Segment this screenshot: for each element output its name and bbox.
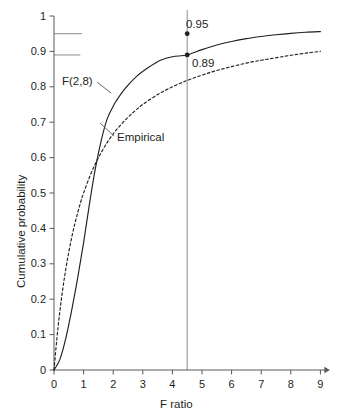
x-tick-label: 2 bbox=[99, 379, 127, 390]
leader-line-f28 bbox=[97, 82, 111, 93]
reference-lines bbox=[54, 10, 187, 370]
chart-canvas bbox=[0, 0, 350, 418]
annotation-value-089: 0.89 bbox=[192, 58, 214, 70]
annotation-marker bbox=[185, 31, 190, 36]
y-tick-label: 0.6 bbox=[6, 152, 46, 163]
x-tick-label: 9 bbox=[306, 379, 334, 390]
leader-line-empirical bbox=[100, 123, 114, 136]
y-tick-label: 0.9 bbox=[6, 46, 46, 57]
y-tick-label: 0.8 bbox=[6, 81, 46, 92]
curve-label-f28: F(2,8) bbox=[62, 76, 93, 88]
axis-ticks bbox=[50, 16, 321, 375]
y-tick-label: 0.2 bbox=[6, 294, 46, 305]
x-tick-label: 8 bbox=[277, 379, 305, 390]
x-tick-label: 5 bbox=[188, 379, 216, 390]
x-tick-label: 1 bbox=[70, 379, 98, 390]
figure: 00.10.20.30.40.50.60.70.80.91 0123456789… bbox=[0, 0, 350, 418]
y-axis-title: Cumulative probability bbox=[16, 175, 28, 288]
curve-label-empirical: Empirical bbox=[117, 132, 164, 144]
y-tick-label: 0.1 bbox=[6, 329, 46, 340]
x-tick-label: 3 bbox=[129, 379, 157, 390]
axes bbox=[54, 16, 330, 373]
y-tick-label: 0 bbox=[6, 365, 46, 376]
annotation-value-095: 0.95 bbox=[186, 19, 208, 31]
x-tick-label: 6 bbox=[218, 379, 246, 390]
y-tick-label: 0.7 bbox=[6, 117, 46, 128]
y-tick-label: 1 bbox=[6, 11, 46, 22]
x-tick-label: 4 bbox=[158, 379, 186, 390]
x-tick-label: 7 bbox=[247, 379, 275, 390]
x-axis-title: F ratio bbox=[160, 399, 193, 411]
x-tick-label: 0 bbox=[40, 379, 68, 390]
annotation-marker bbox=[185, 53, 190, 58]
